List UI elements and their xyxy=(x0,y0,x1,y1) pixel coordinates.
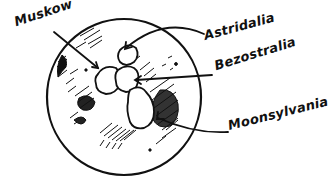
moon-map-illustration: Muskow Astridalia Bezostralia Moonsylvan… xyxy=(0,0,331,180)
moon-outline xyxy=(47,19,201,175)
moon-drawing xyxy=(0,0,331,180)
